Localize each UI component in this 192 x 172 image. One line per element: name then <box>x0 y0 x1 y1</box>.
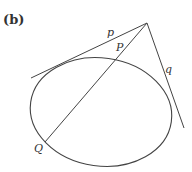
panel-label: (b) <box>3 12 24 27</box>
label-tangent-q: q <box>165 63 172 76</box>
ellipse-tangent-diagram: (b) p P q Q <box>0 0 192 172</box>
label-tangent-p: p <box>107 26 114 39</box>
label-point-Q: Q <box>34 142 43 155</box>
ellipse-curve <box>23 49 179 172</box>
secant-line-PQ <box>45 23 147 142</box>
label-point-P: P <box>115 41 124 54</box>
diagram-canvas: (b) p P q Q <box>0 0 192 172</box>
tangent-line-p <box>31 23 147 78</box>
